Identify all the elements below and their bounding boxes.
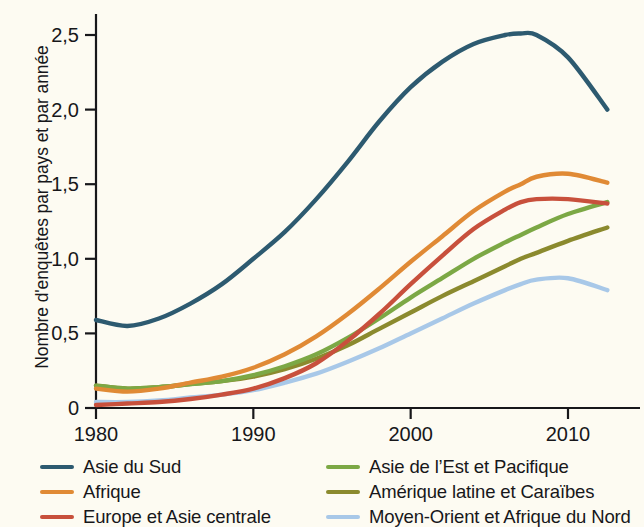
legend-item[interactable]: Moyen-Orient et Afrique du Nord [326, 504, 631, 527]
x-tick-label: 2010 [523, 423, 613, 445]
legend-label: Asie du Sud [83, 456, 181, 477]
legend-item[interactable]: Asie de l’Est et Pacifique [326, 454, 631, 479]
legend-label: Amérique latine et Caraïbes [369, 481, 594, 502]
legend-item[interactable]: Asie du Sud [40, 454, 271, 479]
legend-item[interactable]: Amérique latine et Caraïbes [326, 479, 631, 504]
chart-figure: Nombre d'enquêtes par pays et par année … [0, 0, 644, 527]
x-axis-ticks [96, 408, 568, 419]
legend-label: Moyen-Orient et Afrique du Nord [369, 506, 631, 527]
y-tick-label: 1,5 [33, 174, 79, 194]
legend-column-right: Asie de l’Est et PacifiqueAmérique latin… [326, 454, 631, 527]
legend-color-swatch [326, 465, 360, 469]
legend-label: Afrique [83, 481, 141, 502]
axis-lines [96, 14, 640, 408]
legend-item[interactable]: Europe et Asie centrale [40, 504, 271, 527]
y-tick-label: 0,5 [33, 323, 79, 343]
chart-legend: Asie du SudAfriqueEurope et Asie central… [0, 450, 644, 527]
y-axis-title: Nombre d'enquêtes par pays et par année [27, 0, 57, 417]
y-tick-label: 2,0 [33, 100, 79, 120]
legend-color-swatch [326, 515, 360, 519]
legend-column-left: Asie du SudAfriqueEurope et Asie central… [40, 454, 271, 527]
line-chart-svg [0, 0, 644, 450]
plot-area: Nombre d'enquêtes par pays et par année … [0, 0, 644, 450]
y-tick-label: 0 [33, 398, 79, 418]
x-tick-label: 1980 [51, 423, 141, 445]
x-tick-label: 2000 [366, 423, 456, 445]
legend-color-swatch [40, 465, 74, 469]
legend-color-swatch [40, 490, 74, 494]
legend-item[interactable]: Afrique [40, 479, 271, 504]
legend-label: Asie de l’Est et Pacifique [369, 456, 569, 477]
legend-color-swatch [326, 490, 360, 494]
series-line [96, 227, 607, 388]
series-lines [96, 33, 607, 405]
y-axis-ticks [85, 35, 96, 408]
legend-label: Europe et Asie centrale [83, 506, 271, 527]
y-tick-label: 1,0 [33, 249, 79, 269]
legend-color-swatch [40, 515, 74, 519]
x-tick-label: 1990 [208, 423, 298, 445]
y-tick-label: 2,5 [33, 25, 79, 45]
